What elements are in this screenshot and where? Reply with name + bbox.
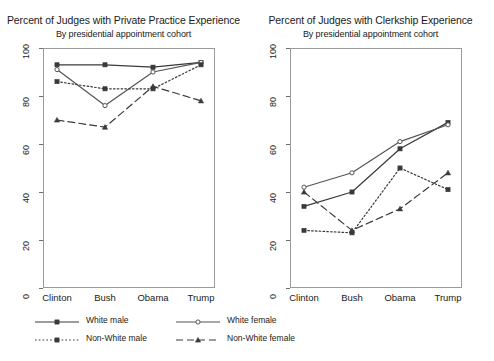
legend: White maleWhite femaleNon-White maleNon-… — [0, 310, 494, 356]
y-tick-mark — [286, 96, 290, 97]
data-point-marker — [151, 70, 155, 74]
legend-label: Non-White female — [227, 333, 295, 343]
data-point-marker — [350, 171, 354, 175]
panel-title: Percent of Judges with Clerkship Experie… — [247, 14, 494, 26]
y-tick-mark — [39, 288, 43, 289]
panel-title: Percent of Judges with Private Practice … — [0, 14, 247, 26]
data-point-marker — [151, 65, 155, 69]
data-point-marker — [301, 189, 306, 194]
y-tick-mark — [39, 144, 43, 145]
data-point-marker — [103, 104, 107, 108]
legend-swatch-icon — [175, 314, 221, 326]
data-point-marker — [350, 190, 354, 194]
y-tick-mark — [286, 48, 290, 49]
legend-item-non-white-female: Non-White female — [175, 332, 295, 344]
data-point-marker — [150, 84, 155, 89]
data-point-marker — [302, 228, 306, 232]
data-point-marker — [398, 147, 402, 151]
series-line — [304, 122, 448, 206]
data-point-marker — [196, 320, 200, 324]
y-tick-mark — [39, 192, 43, 193]
data-point-marker — [398, 140, 402, 144]
y-tick-mark — [286, 288, 290, 289]
legend-line-icon — [34, 334, 80, 346]
data-point-marker — [446, 188, 450, 192]
chart-panel-private-practice: Percent of Judges with Private Practice … — [0, 0, 247, 305]
y-tick-mark — [286, 144, 290, 145]
series-line — [304, 173, 448, 231]
y-tick-mark — [286, 192, 290, 193]
legend-line-icon — [175, 316, 221, 328]
data-point-marker — [199, 63, 203, 67]
data-point-marker — [302, 185, 306, 189]
data-point-marker — [302, 204, 306, 208]
x-tick-label-trump: Trump — [408, 292, 488, 303]
panel-subtitle: By presidential appointment cohort — [0, 29, 247, 39]
series-line — [57, 86, 201, 127]
figure: Percent of Judges with Private Practice … — [0, 0, 494, 361]
data-point-marker — [446, 123, 450, 127]
legend-swatch-icon — [34, 314, 80, 326]
y-tick-mark — [39, 48, 43, 49]
legend-swatch-icon — [175, 332, 221, 344]
y-tick-mark — [39, 96, 43, 97]
legend-item-non-white-male: Non-White male — [34, 332, 147, 344]
data-point-marker — [103, 87, 107, 91]
plot-series-layer — [290, 48, 462, 288]
y-tick-mark — [39, 240, 43, 241]
x-tick-label-trump: Trump — [161, 292, 241, 303]
legend-item-white-male: White male — [34, 314, 129, 326]
chart-panel-clerkship: Percent of Judges with Clerkship Experie… — [247, 0, 494, 305]
series-line — [57, 62, 201, 105]
legend-item-white-female: White female — [175, 314, 277, 326]
data-point-marker — [398, 166, 402, 170]
legend-label: Non-White male — [86, 333, 147, 343]
data-point-marker — [55, 68, 59, 72]
legend-line-icon — [34, 316, 80, 328]
data-point-marker — [445, 170, 450, 175]
legend-label: White male — [86, 315, 129, 325]
data-point-marker — [103, 63, 107, 67]
legend-label: White female — [227, 315, 277, 325]
legend-swatch-icon — [34, 332, 80, 344]
plot-series-layer — [43, 48, 215, 288]
data-point-marker — [55, 63, 59, 67]
data-point-marker — [55, 338, 59, 342]
data-point-marker — [55, 320, 59, 324]
legend-line-icon — [175, 334, 221, 346]
y-tick-mark — [286, 240, 290, 241]
data-point-marker — [55, 80, 59, 84]
panel-subtitle: By presidential appointment cohort — [247, 29, 494, 39]
